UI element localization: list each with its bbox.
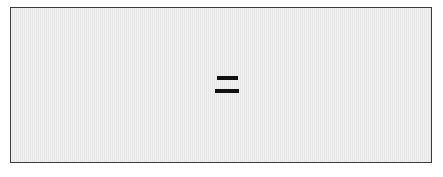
equals-panel[interactable]: = [10,7,432,163]
equals-symbol-text: = [227,69,228,70]
equals-bar-bottom-icon [215,89,239,93]
panel-outer-margin: = [0,0,443,177]
equals-icon: = [207,69,247,95]
screenshot-root: = [0,0,443,177]
equals-bar-top-icon [217,76,238,80]
